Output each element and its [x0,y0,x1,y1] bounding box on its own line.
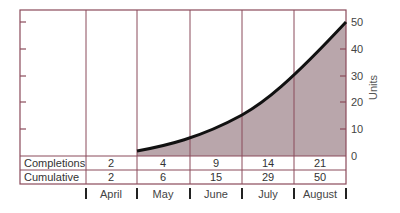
table-cell: 6 [160,171,166,183]
table-cell: 50 [314,171,326,183]
table-cell: 21 [314,157,326,169]
month-april: April [100,188,122,200]
y-tick-20: 20 [351,96,363,108]
y-tick-50: 50 [351,16,363,28]
cumulative-row: 2 6 15 29 50 [108,171,326,183]
chart: 50 40 30 20 10 0 Units Completions Cumul… [0,0,400,213]
table-cell: 2 [108,171,114,183]
month-labels: April May June July August [100,188,337,200]
row-label-cumulative: Cumulative [24,171,79,183]
left-ticks [20,22,26,129]
y-tick-10: 10 [351,123,363,135]
table-cell: 14 [262,157,274,169]
month-june: June [204,188,228,200]
month-may: May [153,188,174,200]
table-cell: 9 [213,157,219,169]
y-tick-40: 40 [351,43,363,55]
row-label-completions: Completions [24,157,86,169]
table-cell: 15 [210,171,222,183]
table-cell: 29 [262,171,274,183]
y-axis-title: Units [367,74,379,100]
completions-row: 2 4 9 14 21 [108,157,326,169]
y-tick-30: 30 [351,70,363,82]
month-july: July [258,188,278,200]
table-cell: 4 [160,157,166,169]
month-august: August [303,188,337,200]
y-tick-0: 0 [351,150,357,162]
table-cell: 2 [108,157,114,169]
